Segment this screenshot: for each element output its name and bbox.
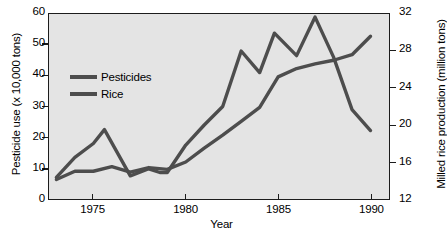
left-axis-title: Pesticide use (x 10,000 tons) — [10, 4, 22, 204]
plot-area — [48, 13, 390, 200]
x-axis-tick-label: 1990 — [359, 203, 384, 215]
right-axis-tick — [390, 125, 396, 126]
series-canvas — [49, 14, 389, 199]
right-axis-tick-label: 32 — [399, 5, 411, 17]
legend-label-pesticides: Pesticides — [101, 71, 151, 83]
left-axis-tick-label: 20 — [33, 130, 45, 142]
right-axis-tick-label: 20 — [399, 117, 411, 129]
left-axis-tick-label: 30 — [33, 99, 45, 111]
right-axis-tick — [390, 87, 396, 88]
right-axis-tick — [390, 50, 396, 51]
legend-item-rice: Rice — [70, 85, 151, 102]
legend-item-pesticides: Pesticides — [70, 68, 151, 85]
legend-swatch-rice — [70, 92, 97, 96]
right-axis-title: Milled rice production (million tons) — [435, 4, 447, 204]
left-axis-tick-label: 40 — [33, 67, 45, 79]
x-axis-tick — [278, 194, 279, 200]
x-axis-tick-label: 1980 — [173, 203, 198, 215]
right-axis-tick-label: 28 — [399, 42, 411, 54]
legend-label-rice: Rice — [101, 88, 123, 100]
left-axis-tick-label: 50 — [33, 36, 45, 48]
left-axis-tick-label: 60 — [33, 5, 45, 17]
x-axis-tick — [92, 194, 93, 200]
left-axis-tick-label: 0 — [39, 192, 45, 204]
right-axis-tick-label: 12 — [399, 192, 411, 204]
x-axis-title: Year — [0, 218, 443, 230]
left-axis-tick-label: 10 — [33, 161, 45, 173]
right-axis-tick — [390, 162, 396, 163]
x-axis-tick — [371, 194, 372, 200]
x-axis-tick-label: 1975 — [80, 203, 105, 215]
series-line-rice — [56, 36, 370, 179]
x-axis-tick-label: 1985 — [266, 203, 291, 215]
chart-legend: Pesticides Rice — [70, 68, 151, 102]
legend-swatch-pesticides — [70, 75, 97, 79]
right-axis-tick-label: 24 — [399, 80, 411, 92]
x-axis-tick — [185, 194, 186, 200]
right-axis-tick-label: 16 — [399, 155, 411, 167]
